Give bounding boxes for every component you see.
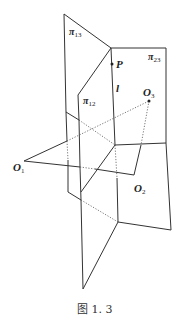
- label-O1: O1: [13, 161, 25, 175]
- label-O3: O3: [143, 86, 155, 100]
- label-pi23: π23: [148, 51, 161, 64]
- label-l: l: [116, 82, 120, 94]
- label-pi13: π13: [69, 26, 82, 39]
- line-l: [111, 48, 118, 222]
- point-P: [111, 63, 114, 66]
- projection-lines: [24, 101, 149, 175]
- plane-pi23: [111, 48, 171, 230]
- label-pi12: π12: [83, 95, 96, 108]
- label-P: P: [116, 58, 123, 70]
- figure-caption: 图 1. 3: [77, 303, 113, 316]
- three-planes-diagram: π13 π23 π12 P l O1 O2 O3 图 1. 3: [0, 0, 180, 318]
- label-O2: O2: [134, 182, 146, 196]
